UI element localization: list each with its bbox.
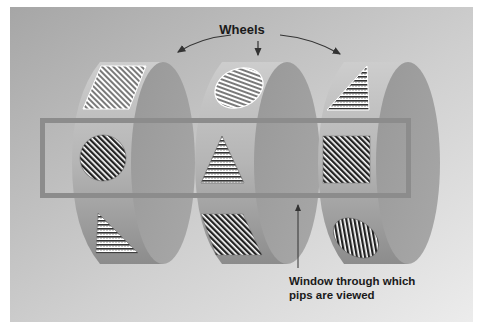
wheels-label: Wheels <box>219 22 265 37</box>
wheel-1-face <box>131 62 195 264</box>
wheel-3-window-pip-square <box>323 136 370 183</box>
wheel-1-window-pip-circle <box>80 135 126 181</box>
window-label-line-1: Window through which <box>289 275 415 287</box>
slot-machine-wheels-diagram: Wheels Window through which pips are vie… <box>0 0 484 333</box>
wheel-2-face <box>254 62 320 264</box>
window-label-line-2: pips are viewed <box>289 289 375 301</box>
